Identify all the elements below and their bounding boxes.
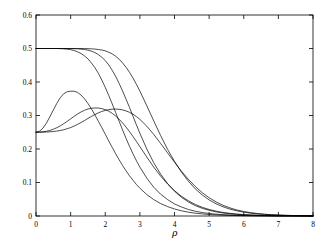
y-tick-label: 0.6 (23, 11, 33, 20)
y-tick-label: 0 (28, 212, 32, 221)
x-axis-label: ρ (171, 226, 177, 238)
x-tick-label: 3 (138, 220, 142, 229)
plot-area: 012345678 00.10.20.30.40.50.6 ρ (23, 11, 316, 238)
x-tick-label: 0 (34, 220, 38, 229)
y-tick-label: 0.3 (23, 111, 33, 120)
y-tick-label: 0.1 (23, 178, 33, 187)
x-tick-label: 7 (277, 220, 281, 229)
y-tick-label: 0.5 (23, 44, 33, 53)
x-tick-label: 5 (207, 220, 211, 229)
y-tick-label: 0.4 (23, 78, 33, 87)
y-tick-label: 0.2 (23, 145, 33, 154)
y-tick-labels: 00.10.20.30.40.50.6 (23, 11, 33, 221)
x-tick-label: 1 (69, 220, 73, 229)
x-tick-label: 6 (242, 220, 246, 229)
x-tick-label: 8 (311, 220, 315, 229)
x-tick-label: 2 (103, 220, 107, 229)
figure: 012345678 00.10.20.30.40.50.6 ρ (0, 0, 334, 248)
plot-background (36, 15, 313, 216)
chart-canvas: 012345678 00.10.20.30.40.50.6 ρ (0, 0, 334, 248)
